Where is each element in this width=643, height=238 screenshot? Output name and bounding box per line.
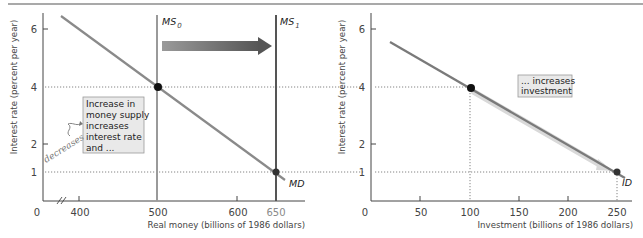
figure: MS0 MS1 MD 6 4 2 1 0 400 500 600 650 Rea… [0,0,643,238]
annotation-money-supply: Increase in money supply increases inter… [83,97,150,153]
ms0-label: MS0 [162,16,182,30]
y-tick-4-right: 4 [359,82,365,93]
id-curve [390,42,625,178]
x-tick-250: 250 [607,207,626,218]
y-tick-6-right: 6 [359,24,365,35]
svg-text:... increases: ... increases [521,76,575,86]
ms1-label: MS1 [280,16,300,30]
x-tick-600: 600 [228,207,247,218]
equilibrium-point-new [273,169,280,176]
svg-text:Increase in: Increase in [86,99,135,109]
equilibrium-point-initial [154,83,162,91]
x-tick-200: 200 [558,207,577,218]
x-tick-500: 500 [148,207,167,218]
y-tick-4: 4 [31,82,37,93]
y-tick-2: 2 [31,139,37,150]
investment-point-initial [467,84,475,92]
x-tick-0: 0 [34,207,40,218]
x-tick-150: 150 [509,207,528,218]
y-tick-6: 6 [31,24,37,35]
left-chart: MS0 MS1 MD 6 4 2 1 0 400 500 600 650 Rea… [9,13,320,230]
annotation-investment: ... increases investment [518,75,575,97]
left-x-axis-title: Real money (billions of 1986 dollars) [148,220,305,230]
svg-text:investment: investment [521,86,572,96]
y-tick-1: 1 [31,167,37,178]
y-tick-1-right: 1 [359,167,365,178]
x-tick-400: 400 [70,207,89,218]
svg-text:and ...: and ... [86,143,114,153]
x-tick-650: 650 [266,207,285,218]
id-label: ID [622,177,632,188]
shift-right-arrow-icon [162,37,272,55]
md-label: MD [289,178,305,189]
x-tick-0-right: 0 [362,207,368,218]
right-y-axis-title: Interest rate (percent per year) [337,20,347,155]
x-tick-50: 50 [415,207,428,218]
right-chart: ID 6 4 2 1 0 50 100 150 200 250 Investme… [320,13,633,230]
handwritten-note: decreases [42,121,86,165]
svg-text:money supply: money supply [86,110,150,120]
svg-text:increases: increases [86,121,129,131]
y-tick-2-right: 2 [359,139,365,150]
svg-text:interest rate: interest rate [86,132,142,142]
investment-point-new [614,169,621,176]
left-y-axis-title: Interest rate (percent per year) [9,20,19,155]
right-x-axis-title: Investment (billions of 1986 dollars) [478,220,633,230]
svg-text:decreases: decreases [42,132,86,165]
x-tick-100: 100 [460,207,479,218]
